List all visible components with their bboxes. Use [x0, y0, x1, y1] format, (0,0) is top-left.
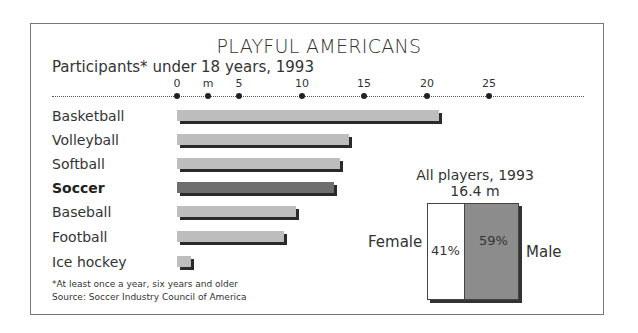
- bar-fill: [177, 110, 439, 121]
- x-tick-dot: [361, 93, 367, 99]
- category-label-ice-hockey: Ice hockey: [52, 254, 127, 270]
- x-tick-label: 15: [357, 77, 371, 90]
- x-tick-label: 0: [174, 77, 181, 90]
- bar-fill: [177, 256, 191, 267]
- bar-fill: [177, 231, 284, 242]
- female-percent: 41%: [431, 243, 460, 258]
- x-tick-dot: [486, 93, 492, 99]
- category-label-baseball: Baseball: [52, 204, 111, 220]
- chart-subtitle: Participants* under 18 years, 1993: [52, 58, 314, 76]
- bar-fill: [177, 206, 296, 217]
- x-axis-dotted-line: [52, 96, 584, 97]
- category-label-soccer: Soccer: [52, 180, 105, 196]
- male-label: Male: [526, 243, 562, 261]
- inset-total: 16.4 m: [400, 183, 550, 199]
- x-tick-label: 25: [482, 77, 496, 90]
- inset-title: All players, 1993: [400, 167, 550, 183]
- x-tick-dot: [205, 93, 211, 99]
- category-label-volleyball: Volleyball: [52, 132, 119, 148]
- category-label-softball: Softball: [52, 156, 105, 172]
- male-segment: [465, 203, 519, 300]
- x-axis-unit-label: m: [203, 77, 214, 90]
- female-label: Female: [368, 233, 422, 251]
- x-tick-dot: [424, 93, 430, 99]
- bar-fill: [177, 134, 349, 145]
- x-tick-dot: [236, 93, 242, 99]
- category-label-basketball: Basketball: [52, 108, 124, 124]
- bar-fill: [177, 182, 334, 193]
- source-note: Source: Soccer Industry Council of Ameri…: [52, 292, 247, 302]
- x-tick-label: 5: [236, 77, 243, 90]
- x-tick-dot: [174, 93, 180, 99]
- chart-title: PLAYFUL AMERICANS: [0, 35, 638, 57]
- category-label-football: Football: [52, 229, 107, 245]
- footnote: *At least once a year, six years and old…: [52, 279, 238, 289]
- male-percent: 59%: [479, 233, 508, 248]
- x-tick-dot: [299, 93, 305, 99]
- bar-fill: [177, 158, 340, 169]
- x-tick-label: 20: [420, 77, 434, 90]
- x-tick-label: 10: [295, 77, 309, 90]
